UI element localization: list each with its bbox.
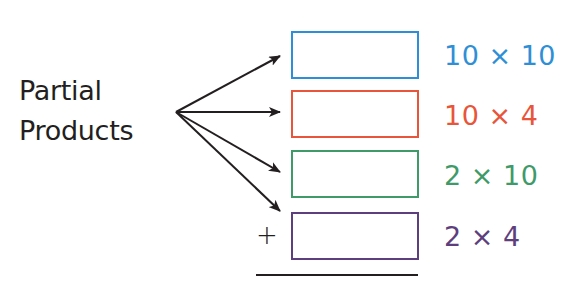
partial-product-label-2: 10 × 4 bbox=[444, 102, 538, 129]
arrow-to-box-4 bbox=[176, 112, 280, 211]
sum-underline bbox=[256, 274, 418, 276]
partial-product-label-1: 10 × 10 bbox=[444, 42, 556, 69]
plus-sign: + bbox=[256, 222, 278, 248]
partial-product-label-4: 2 × 4 bbox=[444, 223, 521, 250]
partial-product-label-3: 2 × 10 bbox=[444, 162, 538, 189]
arrow-to-box-1 bbox=[176, 56, 280, 112]
arrow-to-box-3 bbox=[176, 112, 280, 172]
partial-product-box-1 bbox=[291, 31, 419, 79]
partial-product-box-4 bbox=[291, 212, 419, 260]
partial-product-box-2 bbox=[291, 90, 419, 138]
partial-product-box-3 bbox=[291, 150, 419, 198]
